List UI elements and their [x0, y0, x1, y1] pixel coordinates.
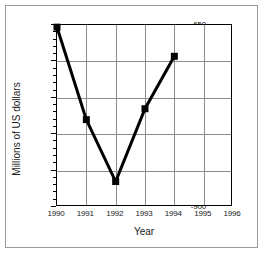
x-tick-label: 1993	[136, 209, 153, 218]
data-point-marker	[142, 105, 149, 112]
data-point-marker	[171, 53, 178, 60]
x-tick-label: 1992	[106, 209, 123, 218]
series-line	[57, 27, 174, 181]
x-tick-label: 1996	[224, 209, 241, 218]
data-point-marker	[83, 116, 90, 123]
x-tick-label: 1991	[77, 209, 94, 218]
series-markers	[54, 24, 178, 185]
x-tick-label: 1990	[48, 209, 65, 218]
y-tick-major	[51, 206, 56, 207]
x-axis-title: Year	[56, 226, 232, 237]
x-tick-label: 1995	[194, 209, 211, 218]
data-point-marker	[112, 178, 119, 185]
plot-area	[56, 24, 232, 206]
figure: Millions of US dollars -650-700-750-800-…	[0, 0, 264, 254]
data-point-marker	[54, 24, 61, 31]
data-series	[57, 25, 233, 207]
x-tick-label: 1994	[165, 209, 182, 218]
y-axis-title: Millions of US dollars	[10, 38, 24, 220]
